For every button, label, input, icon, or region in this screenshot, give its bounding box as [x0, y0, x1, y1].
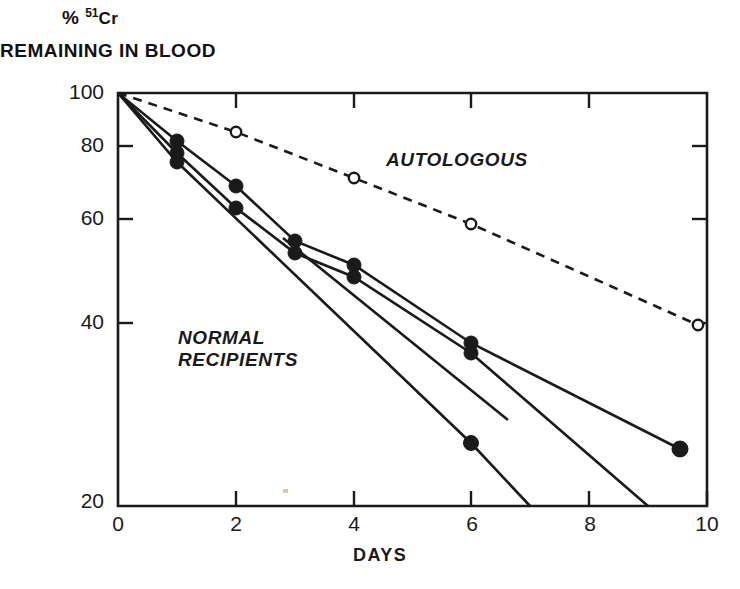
y-tick-label-20: 20	[44, 489, 104, 513]
scan-artifact-speck	[283, 489, 288, 493]
normal-recipients-line-4	[283, 238, 508, 420]
x-axis-title: DAYS	[353, 545, 407, 566]
x-tick-label-6: 6	[452, 512, 492, 536]
y-axis-title-line-1: % 51Cr	[62, 6, 118, 29]
x-tick-label-10: 10	[687, 512, 727, 536]
isotope-element-symbol: Cr	[99, 9, 119, 28]
autologous-line	[118, 93, 698, 325]
y-axis-title-line-2: REMAINING IN BLOOD	[0, 40, 216, 62]
autologous-point-day10	[693, 320, 703, 330]
series-normal-recipients-2	[118, 93, 648, 506]
normal-1-point-day10	[672, 441, 688, 457]
y-tick-label-100: 100	[44, 80, 104, 104]
normal-recipients-series-label: NORMAL RECIPIENTS	[178, 327, 298, 371]
x-tick-label-2: 2	[216, 512, 256, 536]
normal-recipients-label-line-1: NORMAL	[178, 327, 265, 348]
normal-recipients-line-2	[118, 93, 648, 506]
isotope-mass-number: 51	[85, 6, 98, 20]
y-tick-label-60: 60	[44, 206, 104, 230]
autologous-point-day4	[349, 173, 359, 183]
x-tick-label-8: 8	[570, 512, 610, 536]
x-tick-label-0: 0	[98, 512, 138, 536]
figure-root: % 51Cr REMAINING IN BLOOD 100 80 60 40 2…	[0, 0, 740, 589]
series-normal-recipients-4-partial	[283, 238, 508, 420]
normal-3-point-day6	[464, 436, 479, 451]
normal-recipients-line-1	[118, 93, 680, 449]
percent-symbol: %	[62, 7, 85, 28]
autologous-point-day6	[466, 219, 476, 229]
normal-recipients-label-line-2: RECIPIENTS	[178, 349, 298, 370]
normal-3-point-day1	[170, 155, 184, 169]
normal-2-point-day6	[464, 346, 478, 360]
y-axis-tick-marks	[118, 146, 707, 323]
normal-2-point-day4	[347, 270, 361, 284]
autologous-point-day2	[231, 127, 241, 137]
x-tick-label-4: 4	[334, 512, 374, 536]
normal-1-point-day2	[229, 179, 243, 193]
autologous-series-label: AUTOLOGOUS	[386, 149, 528, 171]
series-autologous	[118, 93, 703, 330]
y-tick-label-80: 80	[44, 133, 104, 157]
plot-area	[0, 0, 740, 589]
series-normal-recipients-1	[118, 93, 688, 457]
y-tick-label-40: 40	[44, 310, 104, 334]
